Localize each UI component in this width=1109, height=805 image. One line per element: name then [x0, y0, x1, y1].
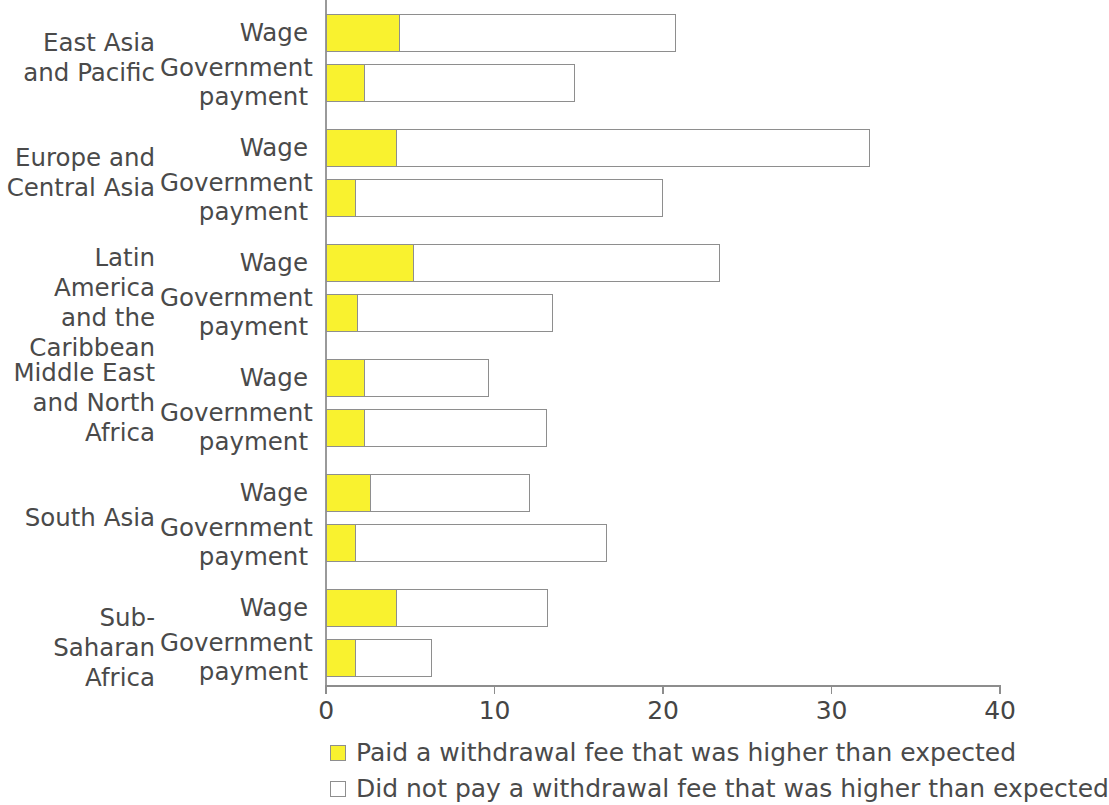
bar-group: South AsiaWageGovernmentpayment [0, 474, 1014, 562]
bar-row-label-line: payment [160, 542, 308, 571]
bar-row-label-line: Wage [160, 248, 308, 277]
bar-row-label: Wage [160, 248, 308, 277]
bar-group: Middle Eastand NorthAfricaWageGovernment… [0, 359, 1014, 447]
legend-label: Paid a withdrawal fee that was higher th… [356, 735, 1016, 771]
bar-row-label: Wage [160, 478, 308, 507]
y-axis-line [325, 0, 327, 686]
x-axis-tick [494, 686, 496, 694]
bar-row-label-line: payment [160, 427, 308, 456]
bar-segment-paid[interactable] [326, 129, 397, 167]
bar-group: Latin Americaand theCaribbeanWageGovernm… [0, 244, 1014, 332]
bar-row-label-line: Government [160, 53, 308, 82]
bar-row: Wage [0, 129, 1014, 167]
bar-row-label: Governmentpayment [160, 53, 308, 111]
bar-segment-paid[interactable] [326, 409, 365, 447]
bar-row-label-line: Wage [160, 133, 308, 162]
bar-row-label: Wage [160, 363, 308, 392]
bar-row: Wage [0, 14, 1014, 52]
stacked-bar[interactable] [326, 179, 663, 217]
bar-segment-paid[interactable] [326, 359, 365, 397]
bar-row-label-line: Government [160, 398, 308, 427]
bar-row-label-line: Government [160, 168, 308, 197]
x-axis-tick [662, 686, 664, 694]
x-axis-tick-label: 30 [802, 696, 862, 725]
bar-row: Governmentpayment [0, 64, 1014, 102]
stacked-bar[interactable] [326, 64, 575, 102]
bar-row-label: Governmentpayment [160, 168, 308, 226]
bar-row-label: Wage [160, 18, 308, 47]
stacked-bar[interactable] [326, 129, 870, 167]
bar-row-label: Governmentpayment [160, 628, 308, 686]
stacked-bar[interactable] [326, 359, 489, 397]
stacked-bar[interactable] [326, 524, 607, 562]
bar-row: Governmentpayment [0, 639, 1014, 677]
stacked-bar[interactable] [326, 14, 676, 52]
bar-row: Governmentpayment [0, 524, 1014, 562]
x-axis-tick-label: 10 [465, 696, 525, 725]
x-axis-tick-label: 0 [296, 696, 356, 725]
bar-row: Wage [0, 589, 1014, 627]
x-axis-tick [831, 686, 833, 694]
bar-segment-paid[interactable] [326, 244, 414, 282]
bar-segment-paid[interactable] [326, 589, 397, 627]
bar-segment-not-paid[interactable] [326, 524, 607, 562]
x-axis-tick [325, 686, 327, 694]
bar-row-label-line: payment [160, 82, 308, 111]
bar-segment-not-paid[interactable] [326, 129, 870, 167]
bar-row: Governmentpayment [0, 294, 1014, 332]
legend-label: Did not pay a withdrawal fee that was hi… [356, 771, 1109, 805]
stacked-bar[interactable] [326, 244, 720, 282]
bar-segment-paid[interactable] [326, 474, 371, 512]
bar-group: Sub-SaharanAfricaWageGovernmentpayment [0, 589, 1014, 677]
bar-row: Wage [0, 474, 1014, 512]
bar-row-label: Governmentpayment [160, 513, 308, 571]
stacked-bar[interactable] [326, 474, 530, 512]
x-axis-tick-label: 20 [633, 696, 693, 725]
bar-group: Europe andCentral AsiaWageGovernmentpaym… [0, 129, 1014, 217]
stacked-bar[interactable] [326, 589, 548, 627]
stacked-bar[interactable] [326, 294, 553, 332]
bar-segment-not-paid[interactable] [326, 179, 663, 217]
bar-row: Governmentpayment [0, 179, 1014, 217]
legend-swatch-paid [330, 745, 346, 761]
bar-row-label-line: Wage [160, 18, 308, 47]
bar-row-label: Wage [160, 133, 308, 162]
bar-row-label-line: Government [160, 283, 308, 312]
bar-row-label-line: Wage [160, 593, 308, 622]
plot-area: 010203040 East Asiaand PacificWageGovern… [0, 0, 1014, 690]
x-axis-tick [999, 686, 1001, 694]
bar-row: Wage [0, 359, 1014, 397]
bar-segment-not-paid[interactable] [326, 294, 553, 332]
bar-segment-paid[interactable] [326, 179, 356, 217]
bar-row-label: Wage [160, 593, 308, 622]
bar-row-label: Governmentpayment [160, 398, 308, 456]
bar-segment-paid[interactable] [326, 14, 400, 52]
legend-swatch-not_paid [330, 781, 346, 797]
bar-segment-paid[interactable] [326, 294, 358, 332]
bar-row: Wage [0, 244, 1014, 282]
bar-row-label-line: Wage [160, 363, 308, 392]
bar-row-label: Governmentpayment [160, 283, 308, 341]
stacked-bar[interactable] [326, 409, 547, 447]
bar-row-label-line: payment [160, 657, 308, 686]
bar-segment-paid[interactable] [326, 64, 365, 102]
bar-group: East Asiaand PacificWageGovernmentpaymen… [0, 14, 1014, 102]
x-axis-tick-label: 40 [970, 696, 1030, 725]
bar-segment-paid[interactable] [326, 639, 356, 677]
stacked-bar[interactable] [326, 639, 432, 677]
bar-row-label-line: Government [160, 513, 308, 542]
bar-row-label-line: Government [160, 628, 308, 657]
bar-row-label-line: payment [160, 312, 308, 341]
bar-row-label-line: Wage [160, 478, 308, 507]
bar-row-label-line: payment [160, 197, 308, 226]
bar-segment-paid[interactable] [326, 524, 356, 562]
bar-row: Governmentpayment [0, 409, 1014, 447]
